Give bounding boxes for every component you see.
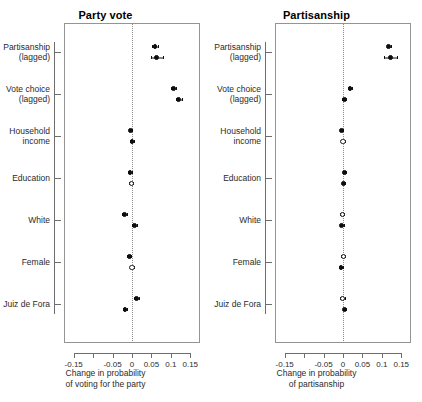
error-bar-cap-high-1-0: [397, 56, 398, 59]
error-bar-cap-high-0-0: [158, 45, 159, 48]
y-axis-label-line1: Female: [22, 257, 50, 267]
y-tick-4: [54, 220, 61, 221]
error-bar-cap-high-1-5: [343, 266, 344, 269]
x-tick-3: [132, 353, 133, 358]
data-point-1-0: [388, 55, 393, 60]
y-tick-5: [54, 262, 61, 263]
panel-partisanship: Partisanship Partisanship(lagged)Vote ch…: [211, 0, 422, 402]
y-axis-label-line1: Partisanship: [214, 42, 261, 52]
data-point-0-0: [153, 44, 158, 49]
error-bar-cap-high-0-1: [176, 87, 177, 90]
data-point-1-3: [341, 181, 346, 186]
y-tick-0: [265, 52, 272, 53]
y-axis-label-3: Education: [223, 173, 261, 183]
y-tick-3: [54, 178, 61, 179]
error-bar-cap-high-0-6: [345, 297, 346, 300]
error-bar-cap-low-1-0: [384, 56, 385, 59]
x-tick-6: [401, 353, 402, 358]
y-axis-label-line2: (lagged): [214, 52, 261, 62]
y-axis-label-4: White: [28, 215, 50, 225]
data-point-1-5: [129, 265, 134, 270]
figure-root: Party vote Partisanship(lagged)Vote choi…: [0, 0, 422, 402]
panel-title-partisanship: Partisanship: [211, 9, 422, 21]
y-axis-label-1: Vote choice(lagged): [217, 84, 261, 104]
data-point-1-1: [342, 97, 347, 102]
panel-title-party-vote: Party vote: [0, 9, 211, 21]
error-bar-cap-high-1-6: [127, 308, 128, 311]
x-tick-0: [285, 353, 286, 358]
data-point-1-6: [342, 307, 347, 312]
x-tick-2: [324, 353, 325, 358]
y-axis-label-line1: Household: [220, 126, 261, 136]
y-axis-label-2: Householdincome: [9, 126, 50, 146]
data-point-0-5: [127, 254, 132, 259]
data-point-0-4: [122, 212, 127, 217]
data-point-1-2: [340, 139, 345, 144]
y-axis-label-6: Juiz de Fora: [3, 299, 50, 309]
y-axis-label-2: Householdincome: [220, 126, 261, 146]
error-bar-cap-high-1-4: [137, 224, 138, 227]
y-tick-4: [265, 220, 272, 221]
error-bar-cap-high-0-6: [139, 297, 140, 300]
xaxis-title-party-vote: Change in probability of voting for the …: [0, 368, 211, 390]
y-axis-label-line1: Vote choice: [6, 84, 50, 94]
y-tick-1: [54, 94, 61, 95]
y-tick-2: [265, 136, 272, 137]
data-point-0-4: [340, 212, 345, 217]
y-tick-6: [265, 304, 272, 305]
y-axis-label-line1: Vote choice: [217, 84, 261, 94]
y-axis-label-4: White: [239, 215, 261, 225]
y-tick-6: [54, 304, 61, 305]
x-tick-4: [362, 353, 363, 358]
y-tick-1: [265, 94, 272, 95]
data-point-0-1: [171, 86, 176, 91]
error-bar-cap-high-0-1: [352, 87, 353, 90]
error-bar-cap-high-0-4: [127, 213, 128, 216]
y-axis-label-line1: Female: [233, 257, 261, 267]
y-tick-3: [265, 178, 272, 179]
xaxis-title-line1: Change in probability: [211, 368, 422, 379]
error-bar-cap-high-1-0: [163, 56, 164, 59]
panel-party-vote: Party vote Partisanship(lagged)Vote choi…: [0, 0, 211, 402]
data-point-0-6: [134, 296, 139, 301]
x-tick-2: [113, 353, 114, 358]
data-point-1-4: [132, 223, 137, 228]
y-axis-label-line2: (lagged): [3, 52, 50, 62]
y-tick-2: [54, 136, 61, 137]
x-tick-4: [151, 353, 152, 358]
data-point-0-2: [128, 128, 133, 133]
y-axis-label-line1: Juiz de Fora: [3, 299, 50, 309]
error-bar-cap-high-1-2: [134, 140, 135, 143]
xaxis-title-line2: of partisanship: [211, 379, 422, 390]
data-point-0-2: [339, 128, 344, 133]
y-axis-label-line2: income: [9, 136, 50, 146]
error-bar-cap-high-0-0: [391, 45, 392, 48]
y-axis-label-line1: Education: [12, 173, 50, 183]
y-axis-label-0: Partisanship(lagged): [3, 42, 50, 62]
y-axis-label-line1: Household: [9, 126, 50, 136]
y-axis-label-5: Female: [233, 257, 261, 267]
x-tick-1: [93, 353, 94, 358]
y-axis-label-line1: White: [239, 215, 261, 225]
y-tick-5: [265, 262, 272, 263]
x-tick-5: [171, 353, 172, 358]
data-point-0-5: [341, 254, 346, 259]
y-axis-label-line2: (lagged): [217, 94, 261, 104]
y-axis-label-0: Partisanship(lagged): [214, 42, 261, 62]
y-axis-label-line1: Education: [223, 173, 261, 183]
data-point-0-3: [342, 170, 347, 175]
xaxis-title-line2: of voting for the party: [0, 379, 211, 390]
error-bar-cap-high-1-1: [182, 98, 183, 101]
y-axis-label-6: Juiz de Fora: [214, 299, 261, 309]
xaxis-title-partisanship: Change in probability of partisanship: [211, 368, 422, 390]
y-axis-label-line2: (lagged): [6, 94, 50, 104]
xaxis-title-line1: Change in probability: [0, 368, 211, 379]
x-tick-0: [74, 353, 75, 358]
y-axis-label-line2: income: [220, 136, 261, 146]
y-axis-label-3: Education: [12, 173, 50, 183]
error-bar-cap-high-0-3: [132, 171, 133, 174]
y-axis-label-line1: Partisanship: [3, 42, 50, 52]
error-bar-cap-low-1-0: [151, 56, 152, 59]
y-axis-label-line1: White: [28, 215, 50, 225]
y-tick-0: [54, 52, 61, 53]
